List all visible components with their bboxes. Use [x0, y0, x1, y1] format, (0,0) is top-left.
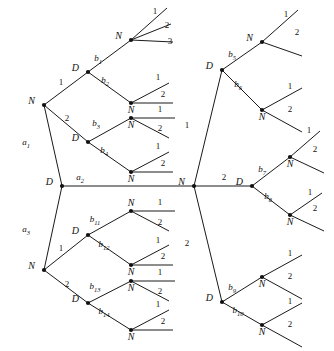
root-action-label-0: a1	[22, 137, 30, 149]
root-action-label-1: a2	[76, 172, 85, 184]
node-label-t_b10: N	[258, 326, 267, 337]
terminal-outcome-label-27: 1	[288, 296, 293, 306]
terminal-edge-6	[131, 118, 169, 138]
chance-node-t_b11[interactable]	[129, 209, 133, 213]
chance-prob-label-4: 1	[185, 120, 190, 130]
decision-node-d_b9[interactable]	[220, 300, 224, 304]
branch-action-label-9: b6	[234, 79, 243, 91]
terminal-outcome-label-19: 1	[288, 81, 293, 91]
terminal-edge-19	[262, 88, 302, 110]
node-label-t_b5: N	[245, 32, 254, 43]
decision-node-root[interactable]	[60, 184, 64, 188]
node-label-t_b1: N	[114, 30, 123, 41]
branch-action-label-13: b10	[233, 305, 245, 317]
node-label-d_b3: D	[71, 132, 80, 143]
terminal-outcome-label-25: 1	[288, 248, 293, 258]
terminal-outcome-label-26: 2	[288, 271, 293, 281]
node-label-t_b6: N	[258, 111, 267, 122]
edge-n_a2-d_b9	[194, 186, 222, 302]
chance-prob-label-0: 1	[59, 77, 64, 87]
terminal-edge-14	[131, 281, 169, 301]
branch-action-label-4: b11	[90, 214, 101, 226]
terminal-edge-20	[262, 110, 302, 132]
terminal-outcome-label-11: 1	[156, 235, 161, 245]
terminal-outcome-label-23: 1	[308, 187, 313, 197]
terminal-outcome-label-22: 2	[313, 144, 318, 154]
terminal-outcome-label-14: 2	[158, 286, 163, 296]
decision-node-d_b7[interactable]	[250, 184, 254, 188]
terminal-outcome-label-5: 1	[158, 104, 163, 114]
node-label-d_b7: D	[235, 176, 244, 187]
chance-node-t_b5[interactable]	[260, 40, 264, 44]
edge-root-n_a1	[44, 105, 62, 186]
branch-action-label-7: b14	[99, 306, 111, 318]
terminal-outcome-label-12: 2	[161, 251, 166, 261]
node-label-t_b7: N	[286, 158, 295, 169]
terminal-outcome-label-17: 1	[284, 9, 289, 19]
node-label-t_b12: N	[127, 266, 136, 277]
terminal-edge-26	[262, 277, 302, 299]
terminal-outcome-label-20: 2	[288, 104, 293, 114]
chance-node-n_a1[interactable]	[42, 103, 46, 107]
terminal-outcome-label-21: 1	[307, 125, 312, 135]
decision-node-d_b1[interactable]	[86, 70, 90, 74]
terminal-outcome-label-6: 2	[158, 123, 163, 133]
terminal-edge-2	[131, 40, 173, 42]
terminal-outcome-label-4: 2	[161, 89, 166, 99]
terminal-outcome-label-13: 1	[158, 267, 163, 277]
node-label-t_b4: N	[127, 173, 136, 184]
terminal-outcome-label-28: 2	[288, 319, 293, 329]
decision-node-d_b11[interactable]	[86, 233, 90, 237]
branch-action-label-10: b7	[258, 164, 267, 176]
node-label-d_b13: D	[71, 293, 80, 304]
terminal-outcome-label-10: 2	[158, 217, 163, 227]
edge-d_b11-t_b12	[88, 235, 131, 265]
terminal-edge-25	[262, 255, 302, 277]
branch-action-label-11: b8	[264, 191, 273, 203]
decision-node-d_b13[interactable]	[86, 301, 90, 305]
terminal-outcome-label-3: 1	[156, 72, 161, 82]
node-label-root: D	[45, 176, 54, 187]
edge-d_b5-t_b6	[222, 70, 262, 110]
node-label-d_b11: D	[71, 225, 80, 236]
terminal-edge-24	[290, 215, 324, 231]
game-tree-figure: a1a2a3b1b2b3b4b11b12b13b14b5b6b7b8b9b101…	[0, 0, 334, 351]
terminal-outcome-label-8: 2	[161, 158, 166, 168]
node-label-t_b8: N	[286, 216, 295, 227]
terminal-edge-17	[262, 10, 298, 42]
node-label-n_a1: N	[27, 95, 36, 106]
terminal-edge-27	[262, 303, 302, 325]
node-label-t_b9: N	[258, 278, 267, 289]
terminal-edge-18	[262, 42, 302, 56]
decision-node-d_b5[interactable]	[220, 68, 224, 72]
branch-action-label-8: b5	[228, 49, 237, 61]
terminal-edge-10	[131, 211, 169, 231]
node-label-t_b2: N	[127, 104, 136, 115]
terminal-outcome-label-18: 2	[295, 27, 300, 37]
terminal-outcome-label-16: 2	[161, 316, 166, 326]
terminal-edge-28	[262, 325, 302, 347]
terminal-outcome-label-1: 2	[165, 20, 170, 30]
chance-prob-label-6: 2	[185, 238, 190, 248]
node-label-n_a3: N	[27, 260, 36, 271]
branch-action-label-0: b1	[94, 53, 102, 65]
terminal-edge-22	[290, 157, 324, 173]
node-label-d_b1: D	[71, 62, 80, 73]
terminal-outcome-label-9: 1	[158, 197, 163, 207]
node-label-n_a2: N	[177, 176, 186, 187]
chance-prob-label-2: 1	[59, 243, 64, 253]
decision-node-d_b3[interactable]	[86, 140, 90, 144]
edge-d_b13-t_b14	[88, 303, 131, 330]
branch-action-label-12: b9	[228, 282, 237, 294]
terminal-outcome-label-0: 1	[153, 6, 158, 16]
chance-node-t_b1[interactable]	[129, 38, 133, 42]
node-label-t_b3: N	[127, 119, 136, 130]
edge-d_b1-t_b2	[88, 72, 131, 103]
branch-action-label-2: b3	[92, 118, 101, 130]
branch-action-label-3: b4	[100, 145, 109, 157]
chance-node-n_a2[interactable]	[192, 184, 196, 188]
terminal-outcome-label-24: 2	[313, 203, 318, 213]
edge-d_b3-t_b4	[88, 142, 131, 172]
chance-prob-label-3: 2	[65, 279, 70, 289]
chance-node-n_a3[interactable]	[42, 268, 46, 272]
